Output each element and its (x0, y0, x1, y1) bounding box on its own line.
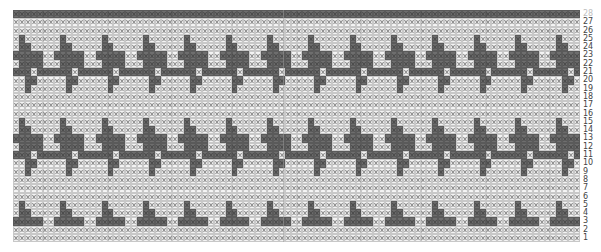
chart-cell (574, 101, 580, 109)
chart-cell (574, 184, 580, 192)
row-number-labels: 2827262524232221201918171615141312111098… (583, 10, 593, 242)
center-divider-line (283, 10, 284, 242)
knitting-chart-grid (13, 10, 580, 242)
chart-cell (574, 217, 580, 225)
chart-cell (574, 201, 580, 209)
chart-cell (574, 110, 580, 118)
chart-cell (574, 226, 580, 234)
chart-cell (574, 209, 580, 217)
chart-cell (574, 76, 580, 84)
chart-cell (574, 43, 580, 51)
chart-cell (574, 143, 580, 151)
chart-cell (574, 193, 580, 201)
chart-cell (574, 134, 580, 142)
chart-cell (574, 85, 580, 93)
chart-cell (574, 151, 580, 159)
chart-cell (574, 234, 580, 242)
chart-cell (574, 118, 580, 126)
chart-cell (574, 168, 580, 176)
chart-cell (574, 27, 580, 35)
chart-cell (574, 10, 580, 18)
chart-cell (574, 35, 580, 43)
chart-cell (574, 93, 580, 101)
chart-cell (574, 51, 580, 59)
row-label-1: 1 (583, 234, 593, 242)
chart-cell (574, 176, 580, 184)
chart-cell (574, 126, 580, 134)
chart-cell (574, 18, 580, 26)
chart-cell (574, 60, 580, 68)
chart-cell (574, 159, 580, 167)
chart-cell (574, 68, 580, 76)
